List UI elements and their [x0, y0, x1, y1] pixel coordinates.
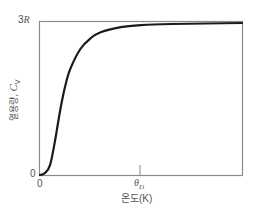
y-tick-3r-symbol: R [24, 14, 30, 25]
heat-capacity-curve [40, 23, 242, 175]
y-axis-label-container: 열용량, CV [4, 60, 24, 140]
y-tick-zero: 0 [30, 168, 36, 179]
y-axis-label-subscript: V [14, 79, 21, 84]
debye-heat-capacity-chart: 3R 0 0 θD 온도(K) 열용량, CV [0, 0, 254, 215]
y-axis-label: 열용량, CV [7, 79, 21, 120]
x-tick-zero: 0 [37, 178, 43, 189]
y-axis-label-text: 열용량, [9, 92, 19, 121]
x-tick-theta-d: θD [134, 177, 144, 191]
x-axis-label: 온도(K) [121, 190, 152, 205]
plot-frame [40, 22, 243, 176]
y-axis-label-symbol: C [7, 84, 19, 91]
y-tick-3r: 3R [18, 14, 30, 25]
